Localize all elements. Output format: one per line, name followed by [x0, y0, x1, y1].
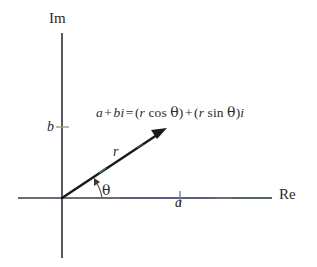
equation-term-a: a	[96, 105, 103, 120]
equation-cos: cos	[148, 105, 166, 120]
tick-label-a: a	[175, 196, 182, 210]
real-axis-label: Re	[279, 187, 296, 202]
equation-r-1: r	[140, 105, 145, 120]
tick-label-b: b	[47, 120, 54, 134]
vector-r-line	[62, 133, 160, 198]
imaginary-axis-label: Im	[49, 11, 66, 26]
equation-plus-2: +	[183, 105, 194, 120]
equation-term-bi: bi	[114, 105, 125, 120]
angle-label-theta: θ	[102, 183, 110, 197]
polar-form-equation: a+bi=(r cos θ)+(r sin θ)i	[96, 105, 244, 120]
equation-sin: sin	[208, 105, 224, 120]
equation-equals: =	[124, 105, 135, 120]
equation-plus-1: +	[103, 105, 114, 120]
vector-magnitude-label-r: r	[113, 145, 118, 159]
equation-trailing-i: i	[240, 105, 244, 120]
equation-theta-1: θ	[170, 104, 179, 120]
complex-plane-diagram: Im Re b a r θ a+bi=(r cos θ)+(r sin θ)i	[0, 0, 317, 267]
equation-r-2: r	[199, 105, 204, 120]
equation-theta-2: θ	[227, 104, 236, 120]
